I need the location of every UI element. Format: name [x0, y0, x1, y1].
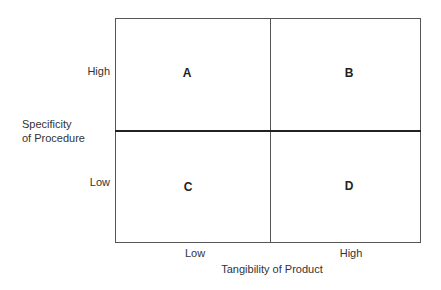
x-level-low: Low: [185, 247, 205, 259]
x-level-high: High: [340, 247, 363, 259]
quadrant-c-label: C: [184, 180, 193, 194]
y-level-high: High: [87, 65, 110, 77]
horizontal-divider: [115, 130, 421, 132]
quadrant-d-label: D: [345, 179, 354, 193]
y-level-low: Low: [90, 176, 110, 188]
quadrant-a-label: A: [183, 66, 192, 80]
quadrant-b-label: B: [345, 66, 354, 80]
x-axis-title: Tangibility of Product: [221, 263, 323, 275]
y-axis-title-line1: Specificity: [22, 118, 72, 130]
y-axis-title-line2: of Procedure: [22, 132, 85, 144]
